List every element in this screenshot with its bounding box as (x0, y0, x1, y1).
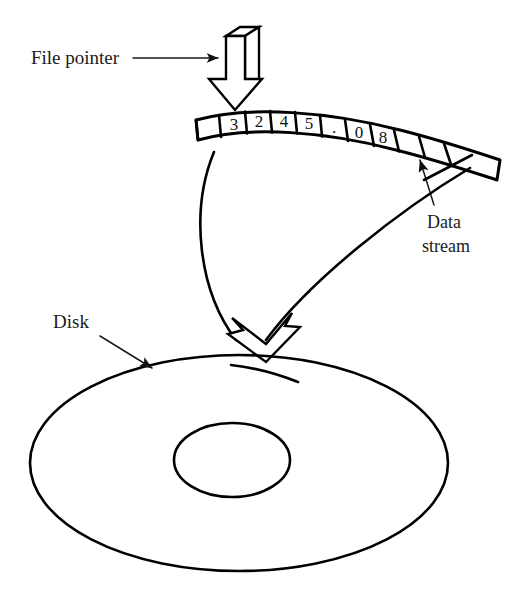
stream-cell-1: 3 (230, 115, 239, 134)
disk-outer-ellipse (30, 355, 448, 571)
stream-cell-6: 0 (355, 123, 364, 142)
stream-cell-7: 8 (379, 128, 388, 147)
disk-leader-arrow (100, 336, 152, 368)
flow-curve-left (200, 152, 236, 340)
data-stream-label-line2: stream (422, 236, 470, 256)
stream-cell-3: 4 (280, 112, 289, 131)
file-pointer-block-arrow-icon (209, 27, 262, 110)
stream-cell-5: . (332, 118, 336, 137)
stream-cell-2: 2 (255, 112, 264, 131)
disk-label: Disk (53, 311, 89, 332)
data-stream-band: 3 2 4 5 . 0 8 (196, 111, 500, 180)
disk-track-mark (231, 365, 298, 382)
stream-cell-4: 5 (305, 114, 314, 133)
data-stream-label-line1: Data (427, 212, 461, 232)
diagram-svg: File pointer (0, 0, 517, 592)
file-pointer-label: File pointer (31, 47, 120, 68)
disk-hole-ellipse (174, 423, 290, 497)
diagram-canvas: File pointer (0, 0, 517, 592)
